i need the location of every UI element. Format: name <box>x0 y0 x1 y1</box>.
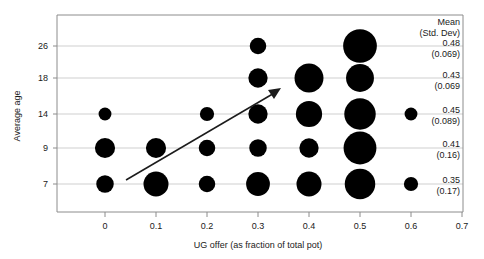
bubble-age-9-offer-0.4 <box>299 138 318 157</box>
bubble-age-18-offer-0.3 <box>248 68 267 87</box>
bubble-age-14-offer-0.4 <box>296 101 322 127</box>
x-tick-label-0.1: 0.1 <box>150 221 163 231</box>
x-tick-label-0.5: 0.5 <box>354 221 367 231</box>
y-tick-label-18: 18 <box>38 73 48 83</box>
y-tick-label-26: 26 <box>38 41 48 51</box>
bubble-age-7-offer-0.5 <box>345 169 376 200</box>
bubble-chart-figure: 0 0.1 0.2 0.3 0.4 0.5 0.6 0.7 26 18 14 9… <box>0 0 484 259</box>
stats-mean-age-7: 0.35 <box>442 175 460 185</box>
bubble-age-14-offer-0 <box>99 108 112 121</box>
x-tick-label-0.6: 0.6 <box>405 221 418 231</box>
bubble-age-26-offer-0.3 <box>250 38 267 55</box>
stats-header-stddev: (Std. Dev) <box>419 28 460 38</box>
bubble-age-9-offer-0.1 <box>146 138 166 158</box>
stats-stddev-age-9: (0.16) <box>436 150 460 160</box>
chart-canvas: 0 0.1 0.2 0.3 0.4 0.5 0.6 0.7 26 18 14 9… <box>0 0 484 259</box>
stats-mean-age-26: 0.48 <box>442 38 460 48</box>
y-tick-label-14: 14 <box>38 109 48 119</box>
stats-stddev-age-18: (0.069 <box>434 81 460 91</box>
stats-stddev-age-7: (0.17) <box>436 186 460 196</box>
bubble-age-9-offer-0.5 <box>344 132 377 165</box>
x-axis-title: UG offer (as fraction of total pot) <box>194 240 322 250</box>
y-tick-labels: 26 18 14 9 7 <box>38 41 48 189</box>
x-tick-label-0.4: 0.4 <box>303 221 316 231</box>
y-tickmarks <box>53 46 57 184</box>
stats-stddev-age-26: (0.069) <box>431 49 460 59</box>
stats-mean-age-14: 0.45 <box>442 105 460 115</box>
bubble-age-7-offer-0.6 <box>404 177 418 191</box>
bubble-age-7-offer-0.2 <box>199 176 216 193</box>
bubble-age-7-offer-0 <box>96 175 114 193</box>
bubble-age-18-offer-0.4 <box>295 64 324 93</box>
bubble-age-14-offer-0.5 <box>344 98 375 129</box>
x-tick-labels: 0 0.1 0.2 0.3 0.4 0.5 0.6 0.7 <box>102 221 468 231</box>
bubble-age-9-offer-0.2 <box>199 140 216 157</box>
stats-mean-age-9: 0.41 <box>442 139 460 149</box>
y-tick-label-7: 7 <box>43 179 48 189</box>
x-tickmarks <box>105 212 462 217</box>
bubble-age-14-offer-0.6 <box>405 108 418 121</box>
x-tick-label-0.3: 0.3 <box>252 221 265 231</box>
bubble-age-7-offer-0.1 <box>143 171 168 196</box>
x-tick-label-0.7: 0.7 <box>456 221 469 231</box>
bubble-age-9-offer-0.3 <box>249 139 267 157</box>
stats-mean-age-18: 0.43 <box>442 70 460 80</box>
bubble-age-9-offer-0 <box>95 138 115 158</box>
bubble-age-7-offer-0.4 <box>296 171 321 196</box>
bubble-age-14-offer-0.2 <box>200 107 214 121</box>
bubble-age-7-offer-0.3 <box>246 172 270 196</box>
x-tick-label-0: 0 <box>102 221 107 231</box>
y-axis-title: Average age <box>12 91 22 142</box>
x-tick-label-0.2: 0.2 <box>201 221 214 231</box>
bubble-age-18-offer-0.5 <box>346 64 374 92</box>
stats-header-mean: Mean <box>437 17 460 27</box>
y-tick-label-9: 9 <box>43 143 48 153</box>
stats-stddev-age-14: (0.089) <box>431 116 460 126</box>
bubble-age-26-offer-0.5 <box>343 29 377 63</box>
